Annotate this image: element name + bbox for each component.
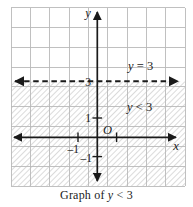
x-tick-label-neg1: –1 [67,143,80,155]
y-tick-label-1: 1 [85,112,91,124]
region-inequality-rhs: 3 [146,100,152,114]
figure-caption: Graph of y < 3 [0,188,193,203]
y-tick-label-3: 3 [85,76,91,88]
caption-prefix: Graph of [60,188,108,202]
coordinate-plane: y x O 3 1 –1 –1 y = 3 y < 3 [0,0,193,207]
caption-rest: < 3 [113,188,133,202]
boundary-equation-label: y = 3 [126,59,153,73]
y-tick-label-neg1: –1 [80,152,93,164]
origin-label: O [103,123,112,137]
boundary-equation-op: = [134,59,147,73]
boundary-equation-rhs: 3 [147,59,153,73]
region-inequality-label: y < 3 [125,100,152,114]
y-axis-label: y [83,6,91,20]
region-inequality-op: < [133,100,146,114]
graph-figure: y x O 3 1 –1 –1 y = 3 y < 3 Graph of y < [0,0,193,207]
x-axis-label: x [172,139,179,153]
